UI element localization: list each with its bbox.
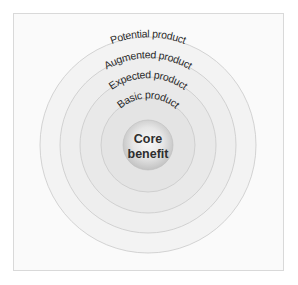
core-label-line1: Core bbox=[134, 132, 163, 146]
product-levels-diagram: Potential product Augmented product Expe… bbox=[0, 0, 298, 285]
core-label-line2: benefit bbox=[128, 147, 170, 161]
